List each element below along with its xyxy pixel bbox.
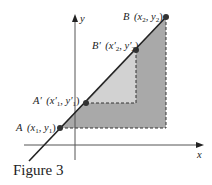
x-axis-label: x (196, 149, 202, 160)
label-A: A (x1, y1) (15, 122, 56, 135)
point-B (163, 14, 169, 20)
y-axis-arrow-icon (72, 14, 78, 22)
inner-shaded-region (86, 50, 136, 103)
label-B-prime: B′ (x′2, y′2) (92, 40, 139, 53)
figure-caption: Figure 3 (13, 162, 63, 179)
point-A-prime (83, 100, 89, 106)
y-axis-label: y (79, 13, 85, 24)
label-A-prime: A′ (x′1, y′1) (32, 95, 80, 108)
label-B: B (x2, y2) (123, 11, 163, 24)
x-axis-arrow-icon (196, 142, 204, 148)
point-A (57, 125, 63, 131)
figure-canvas: y x B (x2, y2) B′ (x′2, y′2) A′ (x′1, y′… (0, 0, 212, 185)
